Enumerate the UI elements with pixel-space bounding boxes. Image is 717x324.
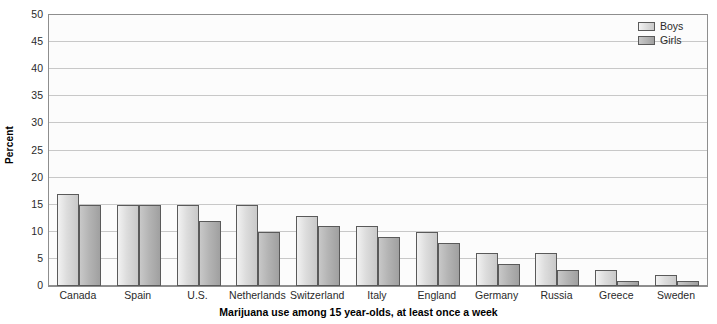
bar-girls-netherlands [258,232,280,286]
y-tick-label: 5 [37,253,43,264]
y-tick-label: 0 [37,280,43,291]
bar-girls-sweden [677,281,699,286]
bar-girls-spain [139,205,161,286]
x-tick-label: Spain [124,289,151,301]
bar-group [535,15,579,286]
bar-boys-spain [117,205,139,286]
bar-group [476,15,520,286]
bar-girls-us [199,221,221,286]
bar-boys-italy [356,226,378,286]
bar-boys-canada [57,194,79,286]
bar-group [57,15,101,286]
bar-group [356,15,400,286]
bar-groups [49,15,707,286]
x-tick-label: England [418,289,457,301]
x-tick-label: Russia [540,289,572,301]
legend-item-girls[interactable]: Girls [638,34,708,47]
y-tick-label: 30 [31,117,43,128]
bar-boys-switzerland [296,216,318,286]
legend-swatch-icon [638,36,655,45]
legend-label: Girls [660,35,682,46]
chart-figure: Percent 05101520253035404550 CanadaSpain… [0,0,717,324]
y-tick-label: 20 [31,171,43,182]
y-axis-title: Percent [0,0,18,290]
x-axis-title: Marijuana use among 15 year-olds, at lea… [0,306,717,318]
legend-label: Boys [660,21,683,32]
y-tick-label: 15 [31,198,43,209]
plot-area [48,14,708,287]
bar-girls-italy [378,237,400,286]
bar-girls-germany [498,264,520,286]
bar-group [416,15,460,286]
x-tick-label: Germany [475,289,518,301]
bar-group [236,15,280,286]
y-axis-tick-labels: 05101520253035404550 [18,0,46,324]
y-tick-label: 45 [31,36,43,47]
bar-group [655,15,699,286]
x-tick-label: Italy [367,289,386,301]
x-axis-tick-labels: CanadaSpainU.S.NetherlandsSwitzerlandIta… [48,289,708,305]
x-tick-label: U.S. [187,289,207,301]
y-tick-label: 35 [31,90,43,101]
x-tick-label: Greece [599,289,633,301]
y-tick-label: 40 [31,63,43,74]
bar-boys-netherlands [236,205,258,286]
bar-boys-sweden [655,275,677,286]
bar-girls-switzerland [318,226,340,286]
x-tick-label: Switzerland [290,289,344,301]
bar-group [117,15,161,286]
bar-boys-england [416,232,438,286]
bar-boys-us [177,205,199,286]
bar-girls-greece [617,281,639,286]
bar-boys-greece [595,270,617,286]
y-axis-title-label: Percent [4,126,15,164]
y-tick-label: 25 [31,144,43,155]
bar-group [296,15,340,286]
legend-item-boys[interactable]: Boys [638,20,708,33]
legend: BoysGirls [638,20,708,48]
bar-group [177,15,221,286]
bar-girls-england [438,243,460,286]
y-tick-label: 10 [31,226,43,237]
bar-girls-russia [557,270,579,286]
x-tick-label: Sweden [657,289,695,301]
x-tick-label: Canada [60,289,97,301]
bar-boys-russia [535,253,557,286]
y-tick-label: 50 [31,9,43,20]
bar-girls-canada [79,205,101,286]
legend-swatch-icon [638,22,655,31]
bar-group [595,15,639,286]
bar-boys-germany [476,253,498,286]
x-tick-label: Netherlands [229,289,286,301]
